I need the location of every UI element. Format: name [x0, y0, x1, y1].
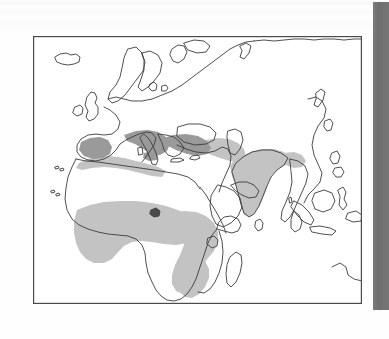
page-gutter-shadow: [373, 2, 389, 310]
map-svg: [32, 35, 363, 305]
distribution-map-figure: [32, 35, 363, 305]
scanned-page-surface: [0, 0, 389, 339]
lake-chad: [150, 208, 160, 217]
scan-artifact-streaks: [0, 0, 389, 34]
